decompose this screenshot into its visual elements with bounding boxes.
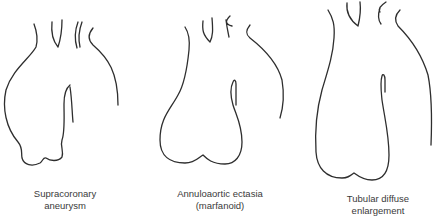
carotid-branch-2: [79, 22, 82, 47]
label-line-2: aneurysm: [10, 200, 120, 212]
descending-aorta-wall: [396, 10, 432, 145]
label-line-1: Tubular diffuse: [318, 193, 438, 205]
carotid-branch: [379, 2, 386, 24]
ascending-aorta-outline: [316, 10, 389, 180]
brachiocephalic-branch: [52, 20, 62, 47]
supracoronary-aneurysm-drawing: [5, 20, 119, 165]
annuloaortic-ectasia-drawing: [160, 16, 283, 164]
label-line-2: (marfanoid): [155, 200, 285, 212]
label-line-1: Annuloaortic ectasia: [155, 188, 285, 200]
label-line-1: Supracoronary: [10, 188, 120, 200]
descending-aorta-wall: [247, 25, 284, 118]
label-annuloaortic-ectasia: Annuloaortic ectasia (marfanoid): [155, 188, 285, 212]
tubular-diffuse-enlargement-drawing: [316, 2, 432, 180]
descending-aorta-wall: [89, 28, 118, 105]
brachiocephalic-branch: [347, 2, 361, 26]
aortic-root-diagrams: [0, 0, 438, 219]
label-supracoronary-aneurysm: Supracoronary aneurysm: [10, 188, 120, 212]
label-tubular-diffuse-enlargement: Tubular diffuse enlargement: [318, 193, 438, 217]
ascending-aorta-outline: [160, 27, 242, 164]
inner-wall-line: [70, 87, 73, 122]
carotid-branch-1: [75, 22, 78, 48]
ascending-aorta-outline: [5, 24, 71, 165]
carotid-branch: [226, 16, 232, 37]
label-line-2: enlargement: [318, 205, 438, 217]
brachiocephalic-branch: [203, 18, 213, 42]
